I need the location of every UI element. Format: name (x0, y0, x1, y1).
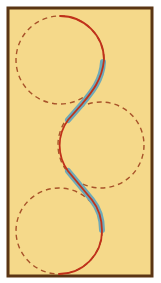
diagram-frame (8, 8, 152, 276)
diagram-canvas (0, 0, 161, 283)
s-curve-diagram (0, 0, 161, 283)
